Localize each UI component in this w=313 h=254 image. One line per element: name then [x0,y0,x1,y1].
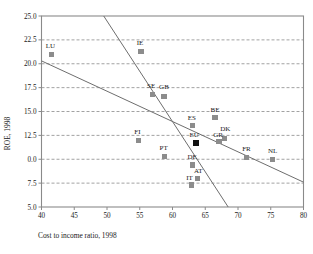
data-point-label: ES [188,114,196,122]
chart-canvas: LUIESEGBBEESFIDKGREUFRNLPTDEATIT 25.022.… [0,0,313,254]
y-axis-tick-labels: 25.022.520.017.515.012.50.07.55.0 [24,13,37,212]
x-tick-label: 50 [103,212,111,220]
data-point-label: IE [137,39,144,47]
data-point-label: GB [159,83,169,91]
x-tick-label: 60 [169,212,177,220]
data-point-marker [162,154,167,159]
y-tick-label: 20.0 [24,60,37,68]
y-tick-label: 22.5 [24,36,37,44]
data-point-label: NL [268,147,277,155]
data-point-label: DE [187,153,196,161]
y-axis-title: ROE, 1998 [3,117,12,151]
scatter-chart: LUIESEGBBEESFIDKGREUFRNLPTDEATIT 25.022.… [0,0,313,254]
data-point-label: AT [194,167,203,175]
x-tick-label: 45 [71,212,79,220]
data-point-marker [270,157,275,162]
x-tick-label: 55 [136,212,144,220]
data-point-label: LU [46,42,55,50]
gridlines [42,40,304,183]
data-point-label: BE [211,106,220,114]
x-axis-title: Cost to income ratio, 1998 [38,231,117,240]
data-point-marker [193,140,198,145]
data-point-marker [190,123,195,128]
y-tick-label: 12.5 [24,132,37,140]
x-tick-label: 40 [38,212,46,220]
y-tick-label: 5.0 [28,204,37,212]
data-point-marker [212,115,217,120]
data-points: LUIESEGBBEESFIDKGREUFRNLPTDEATIT [46,39,278,187]
y-tick-label: 0.0 [28,156,37,164]
data-point-marker [49,52,54,57]
data-point-label: FR [242,145,251,153]
x-tick-label: 75 [267,212,275,220]
x-axis-tick-labels: 404550556065707580 [38,212,308,220]
data-point-label: FI [134,128,141,136]
data-point-label: SE [147,82,155,90]
y-tick-label: 17.5 [24,84,37,92]
data-point-marker [216,139,221,144]
data-point-marker [136,138,141,143]
axis-ticks [39,16,304,210]
data-point-label: IT [186,174,193,182]
data-point-marker [150,92,155,97]
data-point-label: PT [160,144,169,152]
x-tick-label: 80 [300,212,308,220]
data-point-label: GR [213,131,223,139]
data-point-marker [195,176,200,181]
lower-trend-line [42,61,304,182]
data-point-label: EU [189,131,198,139]
data-point-marker [244,155,249,160]
data-point-marker [189,182,194,187]
y-tick-label: 25.0 [24,13,37,21]
data-point-marker [161,94,166,99]
y-tick-label: 7.5 [28,180,37,188]
x-tick-label: 70 [234,212,242,220]
data-point-marker [138,49,143,54]
x-tick-label: 65 [202,212,210,220]
y-tick-label: 15.0 [24,108,37,116]
